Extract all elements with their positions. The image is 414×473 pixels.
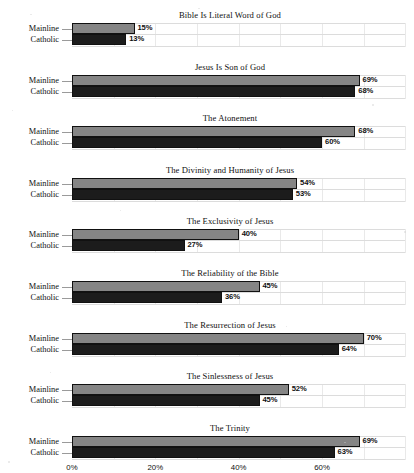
horizontal-gridline	[72, 201, 405, 202]
x-tick-label: 40%	[219, 462, 259, 473]
horizontal-gridline	[72, 356, 405, 357]
bar-value-label: 68%	[358, 125, 373, 137]
bar-value-label: 27%	[188, 239, 203, 251]
bar-catholic	[72, 86, 355, 97]
category-label-mainline: Mainline	[0, 384, 59, 395]
panel-title: Bible Is Literal Word of God	[0, 10, 414, 21]
chart-panel: The Reliability of the Bible45%36%Mainli…	[0, 268, 414, 320]
vertical-gridline	[405, 333, 406, 357]
chart-panel: The Atonement68%60%MainlineCatholic	[0, 113, 414, 165]
category-label-catholic: Catholic	[0, 86, 59, 97]
panel-title: Jesus Is Son of God	[0, 62, 414, 73]
axis-tick	[62, 453, 72, 454]
axis-tick	[62, 390, 72, 391]
axis-tick	[62, 246, 72, 247]
bar-mainline	[72, 229, 239, 240]
category-label-mainline: Mainline	[0, 281, 59, 292]
scan-artifact	[344, 442, 346, 443]
bar-row: 54%	[72, 178, 405, 189]
bar-catholic	[72, 189, 293, 200]
horizontal-gridline	[72, 304, 405, 305]
bar-mainline	[72, 436, 360, 447]
scan-artifact	[120, 210, 121, 211]
x-axis: 0%20%40%60%	[72, 462, 405, 473]
bar-catholic	[72, 344, 339, 355]
axis-tick	[62, 29, 72, 30]
horizontal-gridline	[72, 459, 405, 460]
small-multiples-bar-chart: Bible Is Literal Word of God15%13%Mainli…	[0, 0, 414, 473]
chart-panel: The Resurrection of Jesus70%64%MainlineC…	[0, 320, 414, 372]
bar-value-label: 53%	[296, 188, 311, 200]
axis-tick	[62, 339, 72, 340]
axis-tick	[62, 40, 72, 41]
chart-panel: The Divinity and Humanity of Jesus54%53%…	[0, 165, 414, 217]
bar-mainline	[72, 126, 355, 137]
vertical-gridline	[405, 75, 406, 99]
vertical-gridline	[405, 229, 406, 253]
panel-title: The Trinity	[0, 423, 414, 434]
bar-catholic	[72, 137, 322, 148]
axis-tick	[62, 92, 72, 93]
vertical-gridline	[405, 436, 406, 460]
x-tick-label: 60%	[302, 462, 342, 473]
plot-area: 54%53%	[72, 178, 405, 202]
horizontal-gridline	[72, 46, 405, 47]
bar-row: 13%	[72, 34, 405, 45]
category-label-catholic: Catholic	[0, 240, 59, 251]
panel-title: The Atonement	[0, 113, 414, 124]
bar-row: 69%	[72, 436, 405, 447]
axis-tick	[62, 195, 72, 196]
category-label-mainline: Mainline	[0, 126, 59, 137]
bar-value-label: 60%	[325, 136, 340, 148]
category-label-mainline: Mainline	[0, 75, 59, 86]
vertical-gridline	[405, 126, 406, 150]
bar-row: 52%	[72, 384, 405, 395]
x-tick-label: 20%	[135, 462, 175, 473]
axis-tick	[62, 287, 72, 288]
vertical-gridline	[405, 23, 406, 47]
category-label-catholic: Catholic	[0, 34, 59, 45]
scan-artifact	[198, 8, 200, 9]
bar-catholic	[72, 447, 335, 458]
plot-area: 68%60%	[72, 126, 405, 150]
axis-tick	[62, 81, 72, 82]
plot-area: 69%63%	[72, 436, 405, 460]
axis-tick	[62, 184, 72, 185]
category-label-mainline: Mainline	[0, 23, 59, 34]
bar-value-label: 63%	[338, 446, 353, 458]
category-label-catholic: Catholic	[0, 344, 59, 355]
axis-tick	[62, 143, 72, 144]
axis-tick	[62, 235, 72, 236]
scan-artifact	[372, 104, 374, 106]
bar-value-label: 68%	[358, 85, 373, 97]
category-label-catholic: Catholic	[0, 137, 59, 148]
bar-mainline	[72, 178, 297, 189]
bar-value-label: 45%	[263, 394, 278, 406]
bar-value-label: 13%	[129, 33, 144, 45]
chart-panel: Jesus Is Son of God69%68%MainlineCatholi…	[0, 62, 414, 114]
bar-value-label: 70%	[367, 332, 382, 344]
bar-catholic	[72, 240, 185, 251]
chart-panel: The Sinlessness of Jesus52%45%MainlineCa…	[0, 371, 414, 423]
horizontal-gridline	[72, 252, 405, 253]
panel-title: The Divinity and Humanity of Jesus	[0, 165, 414, 176]
panel-title: The Resurrection of Jesus	[0, 320, 414, 331]
category-label-mainline: Mainline	[0, 229, 59, 240]
category-label-catholic: Catholic	[0, 189, 59, 200]
bar-row: 60%	[72, 137, 405, 148]
bar-row: 45%	[72, 395, 405, 406]
bar-row: 27%	[72, 240, 405, 251]
category-label-mainline: Mainline	[0, 436, 59, 447]
chart-panel: The Exclusivity of Jesus40%27%MainlineCa…	[0, 216, 414, 268]
bar-row: 68%	[72, 126, 405, 137]
bar-mainline	[72, 75, 360, 86]
vertical-gridline	[405, 281, 406, 305]
axis-tick	[62, 350, 72, 351]
horizontal-gridline	[72, 407, 405, 408]
panel-title: The Reliability of the Bible	[0, 268, 414, 279]
scan-artifact	[12, 110, 13, 111]
plot-area: 69%68%	[72, 75, 405, 99]
vertical-gridline	[405, 384, 406, 408]
plot-area: 52%45%	[72, 384, 405, 408]
horizontal-gridline	[72, 149, 405, 150]
